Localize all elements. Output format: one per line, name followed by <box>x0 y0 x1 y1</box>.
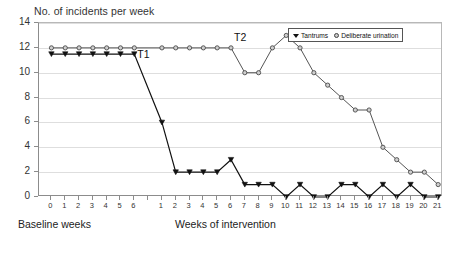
y-axis-label: 0 <box>4 190 30 201</box>
y-axis-tick <box>34 72 38 73</box>
series-line <box>51 35 438 184</box>
data-point <box>395 158 399 162</box>
x-axis-tick <box>78 196 79 200</box>
x-axis-tick <box>189 196 190 200</box>
y-axis-label: 10 <box>4 66 30 77</box>
baseline-caption: Baseline weeks <box>18 218 91 230</box>
y-axis-tick <box>34 121 38 122</box>
data-point <box>159 120 164 125</box>
data-point <box>132 46 136 50</box>
x-axis-tick <box>396 196 397 200</box>
x-axis-tick <box>175 196 176 200</box>
annotation-t1: T1 <box>137 48 149 60</box>
x-axis-tick <box>202 196 203 200</box>
legend-label: Tantrums <box>301 32 328 39</box>
data-point <box>187 46 191 50</box>
chart-legend: TantrumsDeliberate urination <box>288 28 403 42</box>
data-point <box>63 46 67 50</box>
x-axis-label: 6 <box>125 201 141 210</box>
y-axis-label: 6 <box>4 115 30 126</box>
legend-label: Deliberate urination <box>341 32 398 39</box>
x-axis-tick <box>92 196 93 200</box>
legend-item-deliberate-urination: Deliberate urination <box>334 32 398 39</box>
circle-marker-icon <box>334 33 339 38</box>
x-axis-tick <box>285 196 286 200</box>
y-axis-label: 2 <box>4 165 30 176</box>
intervention-caption: Weeks of intervention <box>175 218 276 230</box>
legend-item-tantrums: Tantrums <box>293 32 328 39</box>
data-point <box>381 145 385 149</box>
series-layer <box>39 23 443 197</box>
chart-figure: No. of incidents per week 02468101214 01… <box>0 0 455 256</box>
x-axis-tick <box>437 196 438 200</box>
y-axis-tick <box>34 97 38 98</box>
data-point <box>270 46 274 50</box>
x-axis-tick <box>410 196 411 200</box>
x-axis-tick <box>299 196 300 200</box>
plot-area <box>38 22 442 196</box>
x-axis-tick <box>423 196 424 200</box>
triangle-marker-icon <box>293 34 299 38</box>
y-axis-tick <box>34 22 38 23</box>
x-axis-tick <box>327 196 328 200</box>
data-point <box>353 108 357 112</box>
x-axis-tick <box>216 196 217 200</box>
chart-title: No. of incidents per week <box>34 5 154 17</box>
data-point <box>201 46 205 50</box>
x-axis-tick <box>119 196 120 200</box>
data-point <box>118 46 122 50</box>
data-point <box>91 46 95 50</box>
data-point <box>422 170 426 174</box>
y-axis-label: 4 <box>4 140 30 151</box>
data-point <box>298 46 302 50</box>
y-axis-label: 12 <box>4 41 30 52</box>
data-point <box>326 83 330 87</box>
y-axis-tick <box>34 196 38 197</box>
data-point <box>408 170 412 174</box>
x-axis-tick <box>230 196 231 200</box>
y-axis-tick <box>34 146 38 147</box>
x-axis-tick <box>340 196 341 200</box>
data-point <box>77 46 81 50</box>
x-axis-label: 21 <box>429 201 445 210</box>
x-axis-tick <box>313 196 314 200</box>
data-point <box>436 182 440 186</box>
x-axis-tick <box>354 196 355 200</box>
x-axis-tick <box>368 196 369 200</box>
data-point <box>105 46 109 50</box>
y-axis-label: 8 <box>4 91 30 102</box>
series-line <box>51 54 438 197</box>
data-point <box>257 71 261 75</box>
data-point <box>312 71 316 75</box>
y-axis-tick <box>34 47 38 48</box>
data-point <box>160 46 164 50</box>
x-axis-tick <box>244 196 245 200</box>
data-point <box>215 46 219 50</box>
data-point <box>367 108 371 112</box>
x-axis-tick <box>106 196 107 200</box>
data-point <box>243 71 247 75</box>
data-point <box>229 46 233 50</box>
x-axis-tick <box>64 196 65 200</box>
x-axis-tick <box>382 196 383 200</box>
x-axis-tick <box>50 196 51 200</box>
x-axis-tick <box>161 196 162 200</box>
x-axis-tick <box>133 196 134 200</box>
data-point <box>49 46 53 50</box>
annotation-t2: T2 <box>234 31 246 43</box>
data-point <box>339 95 343 99</box>
x-axis-tick <box>271 196 272 200</box>
x-axis-tick <box>258 196 259 200</box>
y-axis-tick <box>34 171 38 172</box>
x-axis-tick <box>147 196 148 200</box>
y-axis-label: 14 <box>4 16 30 27</box>
data-point <box>174 46 178 50</box>
